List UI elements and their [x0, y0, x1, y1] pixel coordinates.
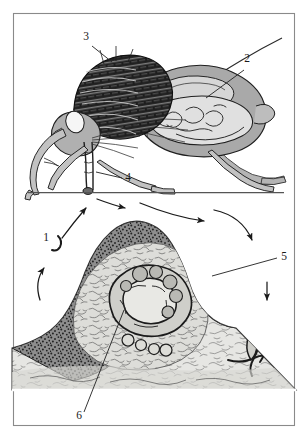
label-3: 3: [83, 30, 89, 42]
figure-container: 3 2 4 1 5 6: [0, 0, 308, 439]
diagram-svg: 3 2 4 1 5 6: [0, 0, 308, 439]
fly-labellum: [83, 188, 93, 195]
tissue-deep-dermis: [12, 366, 296, 390]
label-1: 1: [43, 231, 49, 243]
label-6: 6: [76, 409, 82, 421]
label-2: 2: [244, 52, 250, 64]
label-5: 5: [281, 250, 287, 262]
label-4: 4: [125, 171, 131, 183]
